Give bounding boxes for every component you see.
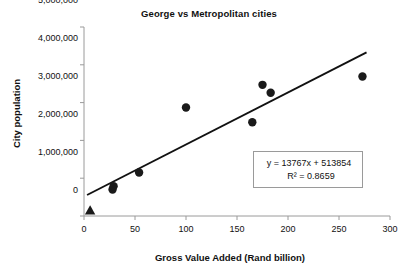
data-point-circle xyxy=(182,103,190,111)
plot-area xyxy=(0,0,418,275)
y-axis-ticks xyxy=(80,27,84,216)
r-squared-value: R² = 0.8659 xyxy=(281,170,334,183)
data-point-circle xyxy=(109,182,117,190)
data-points xyxy=(85,72,367,214)
regression-equation: y = 13767x + 513854 xyxy=(265,157,352,170)
data-point-circle xyxy=(258,81,266,89)
data-point-circle xyxy=(266,89,274,97)
data-point-triangle xyxy=(85,205,95,214)
data-point-circle xyxy=(135,168,143,176)
regression-equation-box: y = 13767x + 513854 R² = 0.8659 xyxy=(253,151,363,188)
scatter-chart: George vs Metropolitan cities City popul… xyxy=(0,0,418,275)
x-axis-ticks xyxy=(84,216,390,220)
data-point-circle xyxy=(248,118,256,126)
data-point-circle xyxy=(358,72,366,80)
